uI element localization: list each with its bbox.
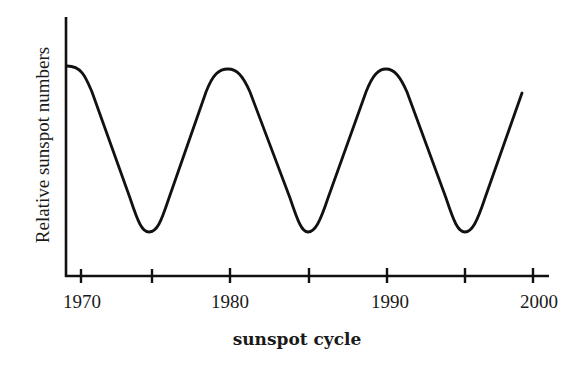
tick-label-1990: 1990	[371, 291, 409, 312]
chart: 1970 1980 1990 2000 sunspot cycle Relati…	[0, 0, 583, 374]
x-axis-title: sunspot cycle	[233, 329, 362, 349]
y-axis-title: Relative sunspot numbers	[32, 47, 53, 243]
tick-label-1980: 1980	[211, 291, 249, 312]
sunspot-curve	[67, 66, 522, 232]
tick-label-2000: 2000	[520, 291, 558, 312]
tick-label-1970: 1970	[63, 291, 101, 312]
